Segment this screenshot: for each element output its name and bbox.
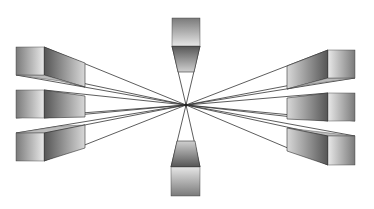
- box-top: [172, 18, 200, 72]
- box-bottom: [171, 141, 200, 196]
- vanishing-point: [185, 104, 188, 107]
- box-right-2: [287, 93, 355, 121]
- box-left-2: [16, 90, 85, 118]
- perspective-diagram: [0, 0, 374, 209]
- diagram-canvas: [0, 0, 374, 209]
- box-right-3: [287, 128, 355, 165]
- box-left-3: [16, 125, 85, 161]
